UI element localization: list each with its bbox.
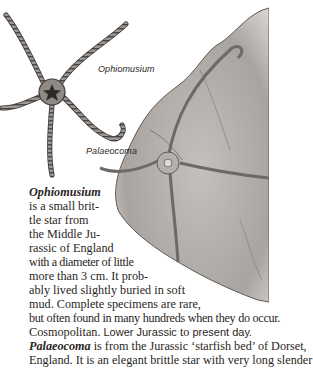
text-line: more than 3 cm. It prob-	[29, 269, 148, 284]
text-line: but often found in many hundreds when th…	[29, 311, 280, 326]
text-line: ably lived slightly buried in soft	[29, 283, 185, 298]
text-line: is a small brit-	[29, 199, 99, 214]
text-line: Ophiomusium	[29, 185, 101, 200]
text-line: mud. Complete specimens are rare,	[29, 297, 201, 312]
text-line: England. It is an elegant brittle star w…	[29, 353, 312, 368]
species-name-ophiomusium: Ophiomusium	[29, 185, 101, 199]
text-fragment: is from the Jurassic ‘starfish bed’ of D…	[91, 339, 307, 353]
text-line: Palaeocoma is from the Jurassic ‘starfis…	[29, 339, 307, 354]
text-line: the Middle Ju-	[29, 227, 100, 242]
text-line: with a diameter of little	[29, 255, 133, 270]
text-fragment: to	[177, 325, 193, 339]
species-name-palaeocoma: Palaeocoma	[29, 339, 91, 353]
text-line: rassic of England	[29, 241, 114, 256]
age-range-end: present day.	[192, 326, 252, 338]
text-line: tle star from	[29, 213, 89, 228]
text-fragment: Cosmopolitan.	[29, 325, 103, 339]
text-line: Cosmopolitan. Lower Jurassic to present …	[29, 325, 252, 340]
age-range-start: Lower Jurassic	[103, 326, 176, 338]
